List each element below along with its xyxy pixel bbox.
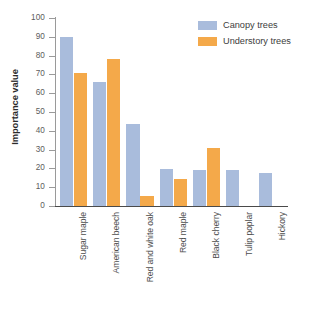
bar-understory <box>174 179 187 206</box>
y-axis-tick <box>49 206 55 207</box>
bar-canopy <box>126 124 139 206</box>
x-axis-label: Hickory <box>277 212 290 240</box>
y-axis-tick-label: 100 <box>17 14 45 22</box>
x-axis-label: American beech <box>111 212 124 273</box>
x-axis-label: Red maple <box>178 212 191 253</box>
y-axis-tick <box>49 18 55 19</box>
legend-item: Understory trees <box>198 35 310 48</box>
legend-swatch-icon <box>198 21 217 30</box>
x-axis-label: Red and white oak <box>145 212 158 282</box>
x-axis-label: Sugar maple <box>78 212 91 260</box>
y-axis-tick-label: 10 <box>17 183 45 191</box>
y-axis-tick-label: 70 <box>17 70 45 78</box>
bar-understory <box>140 196 153 206</box>
legend-label: Canopy trees <box>223 20 278 31</box>
bar-understory <box>207 148 220 206</box>
legend-label: Understory trees <box>223 36 291 47</box>
x-axis-label: Black cherry <box>211 212 224 259</box>
chart-legend: Canopy treesUnderstory trees <box>198 19 310 51</box>
y-axis-tick-label: 20 <box>17 164 45 172</box>
y-axis-tick <box>49 131 55 132</box>
y-axis-tick-label: 40 <box>17 127 45 135</box>
bar-understory <box>107 59 120 206</box>
bar-understory <box>74 73 87 207</box>
x-axis-line <box>55 206 288 207</box>
legend-swatch-icon <box>198 37 217 46</box>
bar-chart-figure: Importance value 0102030405060708090100 … <box>0 0 314 315</box>
y-axis-tick-label: 60 <box>17 89 45 97</box>
y-axis-tick <box>49 37 55 38</box>
y-axis-tick <box>49 150 55 151</box>
y-axis-tick <box>49 56 55 57</box>
bar-canopy <box>160 169 173 206</box>
legend-item: Canopy trees <box>198 19 310 32</box>
x-axis-label: Tulip poplar <box>244 212 257 256</box>
bar-canopy <box>193 170 206 206</box>
bar-canopy <box>60 37 73 206</box>
y-axis-tick-label: 30 <box>17 146 45 154</box>
y-axis-tick-label: 50 <box>17 108 45 116</box>
y-axis-tick <box>49 112 55 113</box>
y-axis-tick <box>49 168 55 169</box>
bar-canopy <box>259 173 272 206</box>
y-axis-tick <box>49 74 55 75</box>
y-axis-tick <box>49 187 55 188</box>
y-axis-tick-label: 90 <box>17 33 45 41</box>
y-axis-tick-label: 0 <box>17 202 45 210</box>
y-axis-tick-label: 80 <box>17 52 45 60</box>
y-axis-tick <box>49 93 55 94</box>
bar-canopy <box>226 170 239 206</box>
bar-canopy <box>93 82 106 206</box>
